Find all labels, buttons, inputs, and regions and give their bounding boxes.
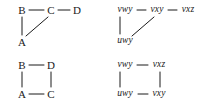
node-vxy: vxy [153,89,166,99]
node-vxy: vxy [151,5,164,15]
node-vwy: vwy [117,60,132,70]
graph-panel-top-left: B C D A [0,0,102,54]
node-c: C [47,5,55,16]
graph-panel-bottom-right: vwy vxz uwy vxy [102,54,204,107]
node-vxz: vxz [182,5,194,15]
edge-c-a [26,17,48,36]
edge-group [22,10,70,36]
node-vxz: vxz [153,60,165,70]
node-uwy: uwy [117,36,133,46]
node-b: B [18,60,26,71]
node-c: C [47,89,55,100]
edge-vxy-uwy [132,17,154,36]
node-b: B [18,5,26,16]
node-d: D [73,5,81,16]
node-a: A [18,37,26,48]
graph-figure: B C D A vwy vxy vxz uwy B [0,0,204,107]
node-a: A [18,89,26,100]
node-vwy: vwy [117,5,132,15]
graph-panel-top-right: vwy vxy vxz uwy [102,0,204,54]
node-uwy: uwy [117,89,133,99]
node-d: D [47,60,55,71]
graph-panel-bottom-left: B D A C [0,54,102,107]
